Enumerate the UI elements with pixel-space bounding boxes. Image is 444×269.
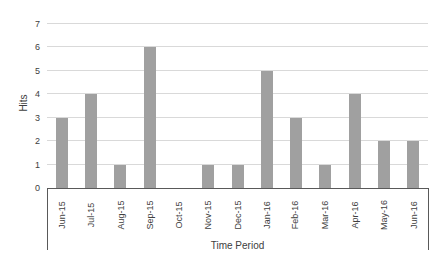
- x-tick-label: Feb-16: [291, 200, 301, 229]
- x-tick-label: Jul-15: [86, 202, 96, 227]
- bar-May-16: [378, 141, 390, 188]
- bar-slot: [369, 24, 398, 188]
- bar-Sep-15: [144, 47, 156, 188]
- bar-Mar-16: [319, 165, 331, 188]
- bars: [47, 24, 428, 188]
- bar-slot: [106, 24, 135, 188]
- bar-slot: [194, 24, 223, 188]
- x-tick-slot: Sep-15: [135, 191, 164, 238]
- bar-Dec-15: [232, 165, 244, 188]
- x-tick-label: Jan-16: [261, 201, 271, 229]
- x-axis-labels: Jun-15Jul-15Aug-15Sep-15Oct-15Nov-15Dec-…: [47, 191, 428, 238]
- bar-slot: [252, 24, 281, 188]
- bar-slot: [135, 24, 164, 188]
- bar-Jan-16: [261, 71, 273, 188]
- x-tick-slot: Aug-15: [106, 191, 135, 238]
- y-tick-label: 7: [0, 20, 40, 29]
- bar-slot: [76, 24, 105, 188]
- bar-Feb-16: [290, 118, 302, 188]
- y-tick-label: 6: [0, 43, 40, 52]
- x-tick-label: Oct-15: [174, 201, 184, 228]
- bar-Apr-16: [349, 94, 361, 188]
- y-tick-label: 4: [0, 90, 40, 99]
- bar-slot: [282, 24, 311, 188]
- y-tick-label: 2: [0, 137, 40, 146]
- x-tick-slot: Jan-16: [252, 191, 281, 238]
- x-tick-label: Jun-16: [408, 201, 418, 229]
- x-tick-slot: Jul-15: [76, 191, 105, 238]
- bar-Nov-15: [202, 165, 214, 188]
- x-tick-slot: Mar-16: [310, 191, 339, 238]
- bar-slot: [399, 24, 428, 188]
- x-axis-title: Time Period: [47, 240, 428, 251]
- bar-Jun-15: [56, 118, 68, 188]
- x-tick-slot: Dec-15: [223, 191, 252, 238]
- x-tick-label: Mar-16: [320, 200, 330, 229]
- bar-chart: Hits 01234567 Jun-15Jul-15Aug-15Sep-15Oc…: [0, 0, 444, 269]
- bar-Aug-15: [114, 165, 126, 188]
- x-tick-label: Apr-16: [349, 201, 359, 228]
- x-tick-slot: Apr-16: [340, 191, 369, 238]
- x-tick-slot: Nov-15: [193, 191, 222, 238]
- x-tick-label: Nov-15: [203, 200, 213, 229]
- x-tick-slot: Oct-15: [164, 191, 193, 238]
- x-tick-slot: Jun-16: [399, 191, 428, 238]
- bar-slot: [47, 24, 76, 188]
- x-tick-label: Aug-15: [115, 200, 125, 229]
- plot-area: [47, 24, 428, 189]
- y-tick-label: 1: [0, 160, 40, 169]
- axis-end-tick-right: [428, 188, 429, 250]
- bar-Jul-15: [85, 94, 97, 188]
- bar-slot: [164, 24, 193, 188]
- bar-slot: [340, 24, 369, 188]
- bar-slot: [223, 24, 252, 188]
- y-tick-label: 0: [0, 184, 40, 193]
- x-tick-label: Dec-15: [232, 200, 242, 229]
- bar-Jun-16: [407, 141, 419, 188]
- y-tick-label: 3: [0, 113, 40, 122]
- x-tick-slot: Jun-15: [47, 191, 76, 238]
- bar-slot: [311, 24, 340, 188]
- y-tick-label: 5: [0, 66, 40, 75]
- x-tick-slot: Feb-16: [281, 191, 310, 238]
- x-tick-label: May-16: [379, 199, 389, 229]
- x-tick-label: Sep-15: [144, 200, 154, 229]
- x-tick-label: Jun-15: [57, 201, 67, 229]
- x-tick-slot: May-16: [369, 191, 399, 238]
